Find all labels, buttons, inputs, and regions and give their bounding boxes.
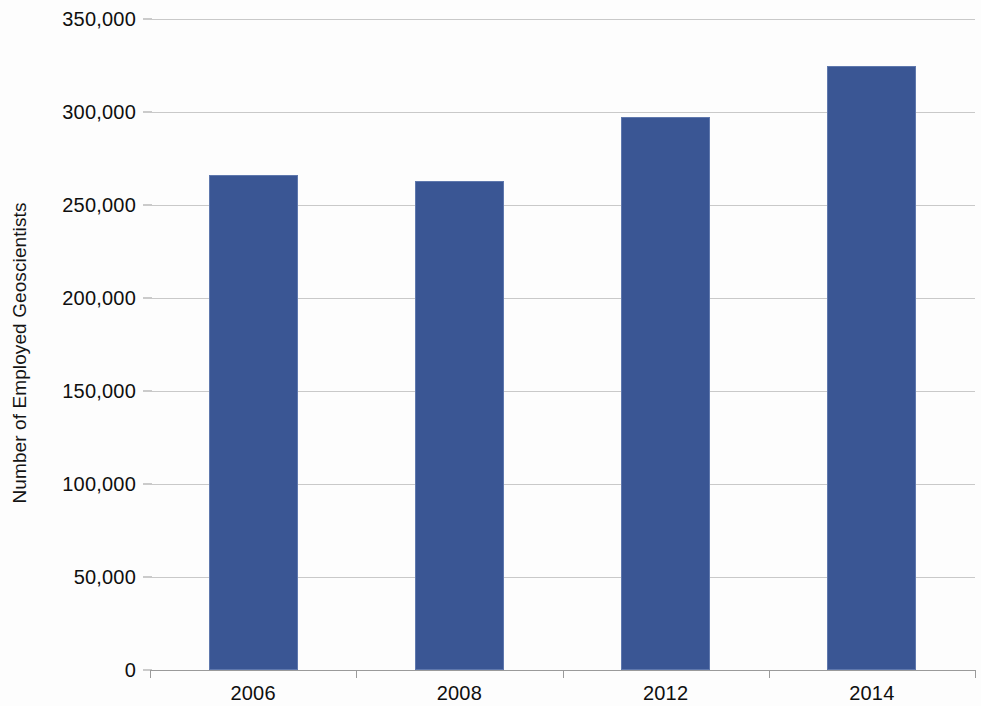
y-axis-tick-label: 350,000: [18, 9, 136, 29]
x-axis-tick-mark: [563, 670, 564, 678]
bar: [621, 117, 710, 670]
y-axis-tick-label: 150,000: [18, 381, 136, 401]
y-axis-tick-labels: 050,000100,000150,000200,000250,000300,0…: [18, 0, 136, 706]
y-axis-tick-label: 100,000: [18, 474, 136, 494]
x-axis-tick-mark: [975, 670, 976, 678]
y-axis-tick-label: 50,000: [18, 567, 136, 587]
bar: [827, 66, 916, 671]
y-axis-tick-label: 300,000: [18, 102, 136, 122]
gridline: [150, 19, 975, 20]
x-axis-tick-label: 2006: [173, 682, 333, 705]
y-axis-tick-label: 250,000: [18, 195, 136, 215]
bar: [209, 175, 298, 670]
bar-chart: Number of Employed Geoscientists 050,000…: [0, 0, 981, 706]
plot-area: [150, 19, 975, 670]
x-axis-tick-label: 2014: [792, 682, 952, 705]
x-axis-tick-label: 2012: [586, 682, 746, 705]
y-axis-tick-label: 0: [18, 660, 136, 680]
y-axis-tick-label: 200,000: [18, 288, 136, 308]
bar: [415, 181, 504, 670]
x-axis-tick-label: 2008: [379, 682, 539, 705]
x-axis-tick-mark: [769, 670, 770, 678]
x-axis-tick-mark: [356, 670, 357, 678]
x-axis-tick-mark: [150, 670, 151, 678]
